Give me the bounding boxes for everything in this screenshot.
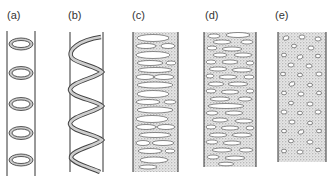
panel-d-reticulate — [204, 32, 256, 167]
vessel-illustration — [0, 0, 332, 180]
panel-c-scalariform — [133, 32, 178, 172]
panel-e-pitted — [278, 32, 326, 162]
panel-a-annular — [7, 31, 35, 176]
panel-b-spiral — [70, 32, 103, 172]
